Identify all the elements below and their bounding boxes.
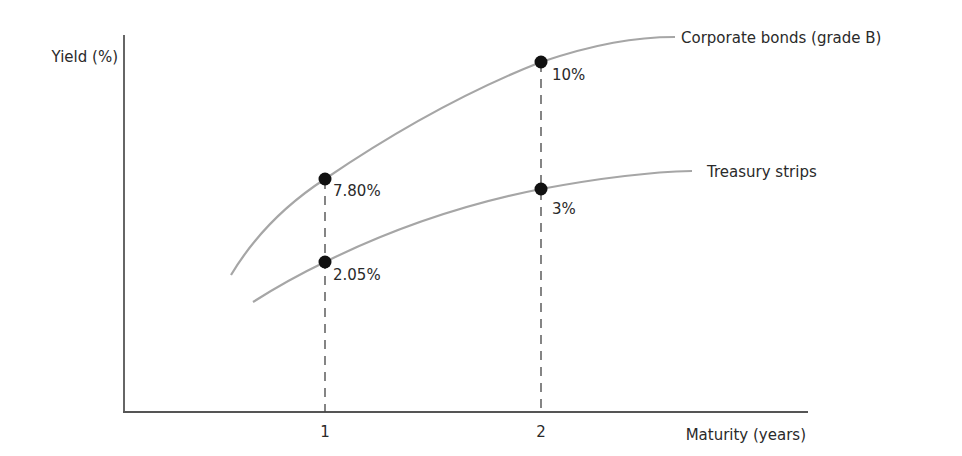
label-corporate-1y: 7.80% (333, 182, 381, 200)
x-tick-1: 1 (320, 423, 330, 441)
x-axis-title: Maturity (years) (686, 426, 806, 444)
treasury-strips-curve (253, 171, 692, 302)
yield-curve-chart: Yield (%) Maturity (years) 1 2 7.80% 10%… (0, 0, 962, 456)
y-axis-title: Yield (%) (51, 48, 118, 66)
point-treasury-2y (535, 183, 548, 196)
point-corporate-2y (535, 56, 548, 69)
series-label-treasury-strips: Treasury strips (706, 163, 817, 181)
point-corporate-1y (319, 173, 332, 186)
series-label-corporate-bonds: Corporate bonds (grade B) (681, 29, 881, 47)
point-treasury-1y (319, 256, 332, 269)
corporate-bonds-curve (231, 37, 675, 275)
label-treasury-2y: 3% (552, 200, 576, 218)
label-corporate-2y: 10% (552, 66, 585, 84)
label-treasury-1y: 2.05% (333, 266, 381, 284)
x-tick-2: 2 (536, 423, 546, 441)
